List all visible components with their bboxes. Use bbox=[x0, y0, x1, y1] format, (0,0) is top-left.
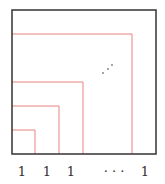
label-n: 1 bbox=[141, 164, 149, 180]
dot bbox=[111, 64, 113, 66]
nested-squares-diagram bbox=[0, 0, 165, 184]
nested-squares bbox=[12, 34, 132, 154]
square-1 bbox=[12, 130, 35, 154]
label-ellipsis: · · · bbox=[104, 164, 125, 180]
dot bbox=[102, 72, 104, 74]
dot bbox=[107, 68, 109, 70]
label-1: 1 bbox=[18, 164, 26, 180]
label-3: 1 bbox=[67, 164, 75, 180]
square-4 bbox=[12, 34, 132, 154]
label-2: 1 bbox=[43, 164, 51, 180]
diagonal-ellipsis bbox=[102, 64, 113, 74]
square-3 bbox=[12, 82, 83, 154]
